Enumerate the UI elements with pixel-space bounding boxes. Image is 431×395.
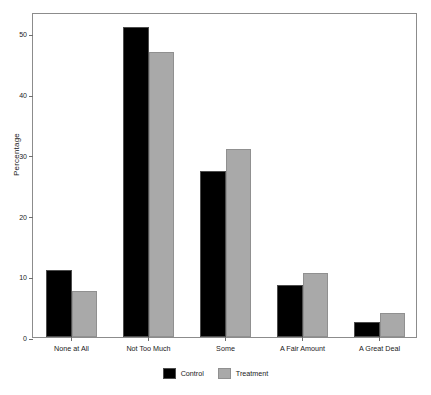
y-tick-label: 0 (23, 334, 27, 343)
bar-treatment-some (226, 149, 252, 337)
legend-item-treatment: Treatment (218, 368, 269, 379)
x-tick-mark (148, 337, 149, 341)
plot-area: 01020304050 None at AllNot Too MuchSomeA… (32, 13, 417, 338)
legend-item-control: Control (163, 368, 204, 379)
x-tick-mark (71, 337, 72, 341)
x-tick-label: Not Too Much (126, 344, 170, 353)
legend-swatch-treatment (218, 368, 231, 379)
bar-control-none-at-all (46, 270, 72, 337)
bar-treatment-not-too-much (149, 52, 175, 338)
bar-control-a-fair-amount (277, 285, 303, 337)
y-tick-mark (29, 278, 33, 279)
x-tick-label: A Great Deal (359, 344, 400, 353)
x-tick-label: Some (216, 344, 235, 353)
y-tick-label: 40 (19, 91, 27, 100)
plot-inner-surface: 01020304050 None at AllNot Too MuchSomeA… (33, 14, 416, 337)
bar-treatment-a-great-deal (380, 313, 406, 337)
legend-label-treatment: Treatment (236, 369, 269, 378)
bar-control-a-great-deal (354, 322, 380, 337)
legend-swatch-control (163, 368, 176, 379)
y-tick-label: 30 (19, 152, 27, 161)
bar-control-not-too-much (123, 27, 149, 337)
y-tick-label: 50 (19, 30, 27, 39)
x-tick-mark (379, 337, 380, 341)
x-tick-label: None at All (54, 344, 89, 353)
y-tick-mark (29, 156, 33, 157)
y-tick-mark (29, 35, 33, 36)
y-tick-mark (29, 217, 33, 218)
x-tick-mark (302, 337, 303, 341)
chart-legend: ControlTreatment (0, 368, 431, 379)
y-tick-label: 20 (19, 213, 27, 222)
bar-chart-figure: Percentage 01020304050 None at AllNot To… (0, 0, 431, 395)
bar-treatment-none-at-all (72, 291, 98, 337)
x-tick-mark (225, 337, 226, 341)
x-tick-label: A Fair Amount (280, 344, 325, 353)
bar-treatment-a-fair-amount (303, 273, 329, 337)
legend-label-control: Control (181, 369, 204, 378)
y-tick-mark (29, 96, 33, 97)
bar-control-some (200, 171, 226, 337)
y-tick-label: 10 (19, 273, 27, 282)
y-tick-mark (29, 339, 33, 340)
